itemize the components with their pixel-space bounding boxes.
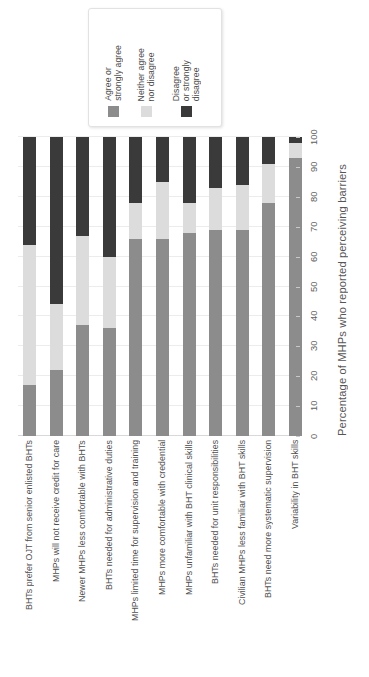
tick-label-10: 10 [300,399,326,413]
bar-8 [236,137,249,436]
tick-mark-50 [296,287,300,288]
bar-0 [23,137,36,436]
tick-mark-0 [296,436,300,437]
legend-swatch-disagree [181,106,192,117]
tick-mark-10 [296,406,300,407]
tick-mark-90 [296,167,300,168]
tick-label-80: 80 [300,190,326,204]
bar-segment-0 [129,239,142,436]
bar-segment-1 [23,245,36,386]
tick-label-60: 60 [300,250,326,264]
bar-segment-1 [183,203,196,233]
legend-label-agree: Agree or strongly agree [103,45,123,101]
tick-label-40: 40 [300,309,326,323]
category-label-8: Civilian MHPs less familiar with BHT ski… [236,440,249,655]
bar-segment-2 [23,137,36,245]
category-label-6: MHPs unfamiliar with BHT clinical skills [183,440,196,655]
bar-segment-1 [103,257,116,329]
bar-segment-1 [236,185,249,230]
tick-mark-20 [296,376,300,377]
bar-segment-1 [156,182,169,239]
tick-mark-40 [296,316,300,317]
legend-swatch-agree [108,106,119,117]
bar-2 [76,137,89,436]
category-label-0: BHTs prefer OJT from senior enlisted BHT… [23,440,36,655]
bar-segment-1 [129,203,142,239]
legend-label-neither: Neither agree nor disagree [136,48,156,101]
category-label-2: Newer MHPs less comfortable with BHTs [76,440,89,655]
tick-mark-30 [296,346,300,347]
tick-mark-100 [296,137,300,138]
tick-label-30: 30 [300,339,326,353]
bar-segment-1 [76,236,89,326]
bar-7 [209,137,222,436]
tick-label-20: 20 [300,369,326,383]
bar-1 [50,137,63,436]
legend-item-disagree: Disagree or strongly disagree [171,60,201,117]
bar-segment-0 [23,385,36,436]
bar-5 [156,137,169,436]
bar-segment-2 [129,137,142,203]
bar-segment-2 [156,137,169,182]
chart-legend: Agree or strongly agree Neither agree no… [88,8,222,127]
bar-segment-0 [262,203,275,436]
legend-swatch-neither [141,106,152,117]
bar-segment-0 [50,370,63,436]
bar-segment-1 [262,164,275,203]
tick-label-100: 100 [300,130,326,144]
bar-segment-2 [183,137,196,203]
bar-segment-1 [50,304,63,370]
bar-segment-2 [50,137,63,304]
bar-segment-0 [209,230,222,436]
category-label-5: MHPs more comfortable with credential [156,440,169,655]
tick-mark-70 [296,227,300,228]
value-axis-title: Percentage of MHPs who reported perceivi… [331,130,353,470]
tick-label-0: 0 [300,429,326,443]
bar-segment-0 [103,328,116,436]
tick-label-90: 90 [300,160,326,174]
bar-segment-0 [236,230,249,436]
bar-6 [183,137,196,436]
category-label-10: Variability in BHT skills [289,440,302,655]
legend-item-agree: Agree or strongly agree [103,45,123,117]
bar-segment-2 [103,137,116,257]
bar-segment-2 [76,137,89,236]
legend-item-neither: Neither agree nor disagree [136,48,156,117]
tick-label-70: 70 [300,220,326,234]
category-label-1: MHPs will not receive credit for care [50,440,63,655]
tick-mark-60 [296,257,300,258]
bar-segment-0 [156,239,169,436]
bar-segment-0 [76,325,89,436]
category-label-7: BHTs needed for unit responsibilities [209,440,222,655]
bar-segment-2 [236,137,249,185]
bar-4 [129,137,142,436]
plot-area [18,137,300,436]
bar-3 [103,137,116,436]
tick-label-50: 50 [300,280,326,294]
value-axis-ticks: 0102030405060708090100 [300,128,328,446]
bar-segment-2 [262,137,275,164]
category-label-3: BHTs needed for administrative duties [103,440,116,655]
bar-segment-2 [209,137,222,188]
bar-segment-0 [183,233,196,436]
category-axis-labels: BHTs prefer OJT from senior enlisted BHT… [18,440,300,660]
category-label-4: MHPs limited time for supervision and tr… [129,440,142,655]
tick-mark-80 [296,197,300,198]
category-label-9: BHTs need more systematic supervision [262,440,275,655]
bar-segment-1 [209,188,222,230]
bar-9 [262,137,275,436]
legend-label-disagree: Disagree or strongly disagree [171,60,201,101]
